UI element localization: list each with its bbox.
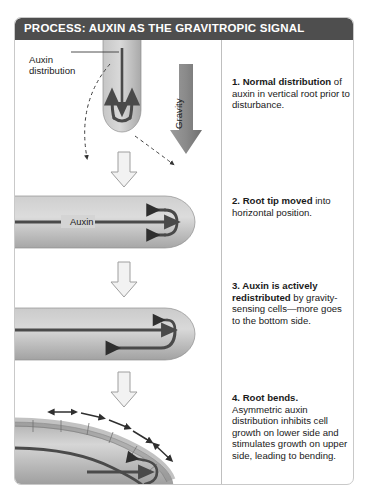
- stage-redistributed-root: [15, 308, 195, 360]
- caption-column: 1. Normal distribution of auxin in verti…: [221, 40, 354, 485]
- gravity-label: Gravity: [173, 84, 184, 144]
- transition-arrow-3: [111, 372, 137, 407]
- transition-arrow-2: [111, 262, 137, 297]
- step-2-number: 2.: [232, 195, 240, 206]
- stage-bending-root: [15, 412, 173, 485]
- step-2-heading: Root tip moved: [243, 195, 313, 206]
- stage-horizontal-root: [15, 196, 195, 248]
- gravity-indicator: Gravity: [155, 64, 215, 124]
- figure-panel: PROCESS: AUXIN AS THE GRAVITROPIC SIGNAL: [14, 17, 354, 485]
- figure-title-bar: PROCESS: AUXIN AS THE GRAVITROPIC SIGNAL: [15, 18, 353, 40]
- transition-arrow-1: [111, 152, 137, 187]
- step-4-caption: 4. Root bends. Asymmetric auxin distribu…: [232, 392, 350, 462]
- stage-vertical-root: [71, 40, 141, 132]
- auxin-inline-label: Auxin: [70, 216, 93, 227]
- step-4-number: 4.: [232, 392, 240, 403]
- auxin-distribution-label: Auxin distribution: [29, 54, 75, 77]
- gravity-arrow-icon: [155, 64, 215, 156]
- illustration-column: Gravity Auxin distribution Auxin: [15, 40, 221, 485]
- figure-title: PROCESS: AUXIN AS THE GRAVITROPIC SIGNAL: [24, 22, 304, 34]
- step-4-heading: Root bends.: [243, 392, 298, 403]
- step-4-body: Asymmetric auxin distribution inhibits c…: [232, 404, 347, 461]
- step-3-caption: 3. Auxin is actively redistributed by gr…: [232, 280, 350, 326]
- step-2-caption: 2. Root tip moved into horizontal positi…: [232, 195, 350, 218]
- step-1-heading: Normal distribution: [243, 76, 331, 87]
- step-1-number: 1.: [232, 76, 240, 87]
- step-1-caption: 1. Normal distribution of auxin in verti…: [232, 76, 350, 111]
- step-3-number: 3.: [232, 280, 240, 291]
